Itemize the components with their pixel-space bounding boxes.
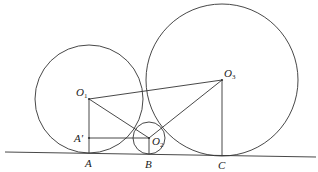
- point-o1: [88, 98, 90, 100]
- point-a-prime: [88, 137, 90, 139]
- point-o3: [221, 79, 223, 81]
- diagram-canvas: O1 O2 O3 A′ A B C: [0, 0, 318, 172]
- label-o3: O3: [224, 67, 236, 81]
- label-c: C: [218, 159, 226, 171]
- point-o2: [148, 137, 150, 139]
- label-a-prime: A′: [73, 132, 84, 144]
- segment-o1-o2: [89, 99, 149, 138]
- tangent-line: [5, 152, 316, 157]
- geometry-diagram: O1 O2 O3 A′ A B C: [0, 0, 318, 172]
- label-b: B: [145, 158, 152, 170]
- label-a: A: [84, 157, 92, 169]
- label-o2: O2: [152, 135, 164, 149]
- label-o1: O1: [76, 86, 88, 100]
